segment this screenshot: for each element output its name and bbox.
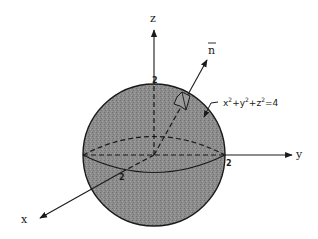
y-intercept-label: 2 [226,159,232,168]
x-intercept-label: 2 [119,173,125,182]
z-axis-label: z [150,12,156,25]
z-intercept-label: 2 [152,76,158,85]
normal-label: n [208,44,215,57]
x-axis-label: x [21,213,28,226]
sphere-diagram: z y x 2 2 2 n x2+y2+z2=4 [0,0,318,239]
eq-plus-1: + [232,98,240,108]
eq-plus-2: + [249,98,257,108]
normal-vector [186,60,207,98]
eq-rhs: =4 [265,98,279,108]
surface-equation: x2+y2+z2=4 [223,96,279,108]
y-axis-label: y [295,148,303,161]
